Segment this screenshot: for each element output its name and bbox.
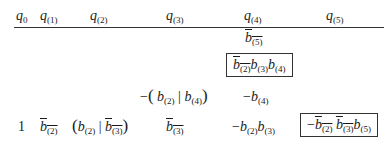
header-q3: q(3) xyxy=(166,8,184,24)
cell-r4-q1: b(2) xyxy=(40,119,58,135)
cell-r1-q4: b(5) xyxy=(245,30,263,46)
header-q4: q(4) xyxy=(244,8,262,24)
header-q2: q(2) xyxy=(90,8,108,24)
cell-r4-q2: (b(2) | b(3)) xyxy=(72,118,128,135)
cell-r4-q3: b(3) xyxy=(166,119,184,135)
cell-r4-q4: −b(2)b(3) xyxy=(232,119,275,135)
header-q0: q0 xyxy=(16,8,28,24)
cell-r2-q4-boxed: b(2)b(3)b(4) xyxy=(226,53,293,77)
cell-r4-q5-boxed: −b(2) b(3)b(5) xyxy=(300,113,378,137)
header-q1: q(1) xyxy=(40,8,58,24)
cell-r3-q3: −( b(2) | b(4)) xyxy=(140,88,208,105)
header-q5: q(5) xyxy=(326,8,344,24)
header-rule xyxy=(14,27,384,28)
cell-r3-q4: −b(4) xyxy=(243,89,268,105)
cell-r4-q0: 1 xyxy=(18,119,25,135)
